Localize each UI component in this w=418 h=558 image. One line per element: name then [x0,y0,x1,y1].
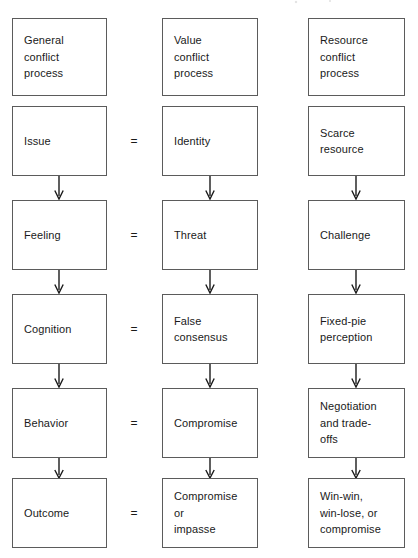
arrow-general-cognition-to-behavior [53,364,65,388]
header-value-line-3: process [174,65,213,82]
equals-row-feeling: = [126,229,142,241]
node-resource-negotiation-line-1: Negotiation [320,398,377,415]
node-value-threat: Threat [162,200,258,270]
node-general-issue-line-1: Issue [24,133,51,150]
header-general-line-1: General [24,32,64,49]
node-value-threat-line-1: Threat [174,227,206,244]
arrow-value-identity-to-threat [204,176,216,200]
arrow-resource-negotiation-to-outcome [350,458,362,479]
node-resource-outcome-line-3: compromise [320,521,381,538]
node-general-cognition-line-1: Cognition [24,321,71,338]
node-value-compromise-or-impasse: Compromise or impasse [162,478,258,548]
node-resource-negotiation-line-3: offs [320,431,338,448]
node-resource-fixed-pie-perception: Fixed-pie perception [308,294,405,364]
arrow-resource-challenge-to-fixed-pie [350,270,362,294]
equals-row-issue: = [126,135,142,147]
header-resource-line-2: conflict [320,49,355,66]
header-box-resource: Resource conflict process [308,18,405,96]
arrow-value-compromise-to-outcome [204,458,216,479]
node-resource-challenge-line-1: Challenge [320,227,370,244]
node-general-feeling-line-1: Feeling [24,227,61,244]
node-value-false-consensus-line-1: False [174,313,201,330]
node-resource-scarce: Scarce resource [308,106,405,176]
node-resource-negotiation-tradeoffs: Negotiation and trade- offs [308,388,405,458]
node-resource-negotiation-line-2: and trade- [320,415,371,432]
equals-row-behavior: = [126,417,142,429]
node-general-feeling: Feeling [12,200,107,270]
header-general-line-3: process [24,65,63,82]
header-resource-line-3: process [320,65,359,82]
node-resource-scarce-line-1: Scarce [320,125,355,142]
node-resource-fixed-pie-line-1: Fixed-pie [320,313,366,330]
equals-row-outcome: = [126,507,142,519]
header-box-general: General conflict process [12,18,107,96]
scan-artifact [286,0,350,4]
node-general-issue: Issue [12,106,107,176]
node-resource-fixed-pie-line-2: perception [320,329,372,346]
arrow-general-feeling-to-cognition [53,270,65,294]
arrow-value-threat-to-false-consensus [204,270,216,294]
node-resource-scarce-line-2: resource [320,141,364,158]
node-value-compromise-line-1: Compromise [174,415,237,432]
header-general-line-2: conflict [24,49,59,66]
node-value-outcome-line-2: or [174,505,184,522]
node-value-identity-line-1: Identity [174,133,210,150]
node-value-false-consensus-line-2: consensus [174,329,228,346]
node-value-compromise: Compromise [162,388,258,458]
header-value-line-2: conflict [174,49,209,66]
arrow-resource-scarce-to-challenge [350,176,362,200]
node-general-behavior: Behavior [12,388,107,458]
node-general-behavior-line-1: Behavior [24,415,68,432]
header-box-value: Value conflict process [162,18,258,96]
node-resource-win-win-outcome: Win-win, win-lose, or compromise [308,478,405,548]
arrow-value-false-consensus-to-compromise [204,364,216,388]
node-resource-outcome-line-1: Win-win, [320,488,363,505]
node-value-outcome-line-1: Compromise [174,488,237,505]
arrow-general-issue-to-feeling [53,176,65,200]
node-resource-challenge: Challenge [308,200,405,270]
node-value-outcome-line-3: impasse [174,521,216,538]
node-value-identity: Identity [162,106,258,176]
node-general-outcome: Outcome [12,478,107,548]
node-resource-outcome-line-2: win-lose, or [320,505,377,522]
equals-row-cognition: = [126,323,142,335]
header-value-line-1: Value [174,32,202,49]
conflict-process-diagram: General conflict process Value conflict … [0,0,418,558]
arrow-resource-fixed-pie-to-negotiation [350,364,362,388]
node-general-outcome-line-1: Outcome [24,505,69,522]
header-resource-line-1: Resource [320,32,368,49]
arrow-general-behavior-to-outcome [53,458,65,479]
node-value-false-consensus: False consensus [162,294,258,364]
node-general-cognition: Cognition [12,294,107,364]
